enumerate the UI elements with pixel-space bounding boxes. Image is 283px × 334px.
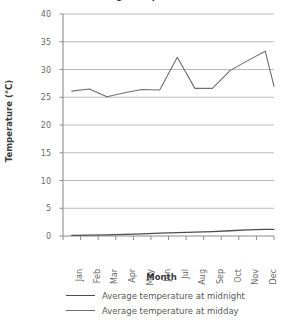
y-tick-label: 40 — [41, 10, 51, 19]
y-tick-label: 10 — [41, 176, 51, 185]
plot-svg — [63, 14, 274, 236]
temperature-line-chart: Average temperature Temperature (°C) 051… — [0, 0, 283, 334]
y-tick-label: 25 — [41, 93, 51, 102]
gridlines — [63, 14, 274, 208]
plot-area — [63, 14, 274, 236]
y-axis-title: Temperature (°C) — [4, 61, 14, 181]
y-axis-tick-labels: 0510152025303540 — [26, 0, 51, 334]
y-tick-label: 20 — [41, 121, 51, 130]
legend-line-swatch — [66, 295, 95, 296]
y-tick-label: 0 — [46, 232, 51, 241]
chart-legend: Average temperature at midnightAverage t… — [0, 288, 283, 318]
legend-line-swatch — [66, 310, 95, 311]
legend-label: Average temperature at midday — [102, 306, 239, 316]
legend-label: Average temperature at midnight — [102, 291, 245, 301]
legend-item: Average temperature at midday — [0, 303, 283, 318]
y-tick-label: 5 — [46, 204, 51, 213]
series-line — [72, 51, 274, 97]
y-tick-label: 15 — [41, 148, 51, 157]
legend-item: Average temperature at midnight — [0, 288, 283, 303]
series-line — [72, 229, 274, 235]
x-axis-title: Month — [40, 272, 283, 282]
y-tick-label: 35 — [41, 37, 51, 46]
y-tick-label: 30 — [41, 65, 51, 74]
